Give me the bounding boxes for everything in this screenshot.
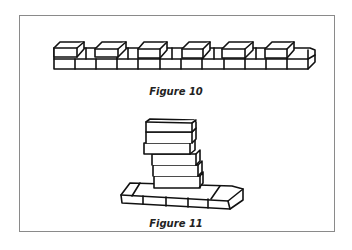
top-brick [95,42,126,57]
figure-10-illustration [0,0,352,250]
top-brick [265,42,294,58]
top-brick [138,42,167,58]
figure-10-caption: Figure 10 [0,86,352,97]
top-brick [54,42,84,57]
figure-11-caption: Figure 11 [0,218,352,229]
top-brick [182,42,210,58]
top-brick [222,42,253,58]
figure-11-tower [144,119,203,188]
